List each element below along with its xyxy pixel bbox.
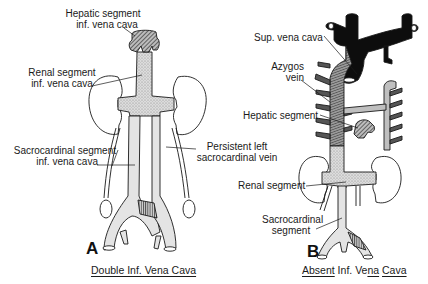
label-line: Sup. vena cava bbox=[254, 32, 323, 43]
label-line: inf. vena cava bbox=[26, 78, 98, 89]
renal-segment-ivc bbox=[118, 52, 174, 116]
panel-a-drawing bbox=[89, 28, 206, 251]
label-line: Sacrocardinal bbox=[262, 214, 320, 225]
label-line: Persistent left bbox=[192, 141, 282, 152]
left-gonad bbox=[100, 200, 112, 218]
label-line: Azygos bbox=[262, 61, 304, 72]
label-line: vein bbox=[262, 72, 304, 83]
label-sacrocardinal-segment-ivc: Sacrocardinal segment inf. vena cava bbox=[8, 145, 116, 167]
caption-na: na bbox=[367, 264, 379, 276]
right-gonad bbox=[183, 200, 195, 218]
label-renal-segment-ivc: Renal segment inf. vena cava bbox=[26, 67, 98, 89]
label-line: Hepatic segment bbox=[58, 8, 148, 19]
label-hepatic-segment-ivc: Hepatic segment inf. vena cava bbox=[58, 8, 148, 30]
label-line: Hepatic segment bbox=[243, 110, 318, 121]
label-line: Renal segment bbox=[238, 180, 305, 191]
label-line: inf. vena cava bbox=[8, 156, 116, 167]
label-line: segment bbox=[262, 225, 320, 236]
panel-a-caption: Double Inf. Vena Cava bbox=[91, 264, 196, 276]
renal-segment-b bbox=[322, 146, 376, 188]
right-kidney bbox=[173, 76, 206, 134]
caption-cava: Cava bbox=[382, 264, 407, 276]
label-line: sacrocardinal vein bbox=[192, 152, 282, 163]
label-azygos-vein: Azygos vein bbox=[262, 61, 304, 83]
panel-b-caption: Absent Inf. Vena Cava bbox=[302, 264, 407, 276]
azygos-hemiazygos-connection bbox=[344, 104, 386, 114]
hepatic-segment-b bbox=[354, 120, 375, 138]
label-sacrocardinal-segment: Sacrocardinal segment bbox=[262, 214, 320, 236]
label-line: inf. vena cava bbox=[58, 19, 148, 30]
label-persistent-left-sacrocardinal-vein: Persistent left sacrocardinal vein bbox=[192, 141, 282, 163]
panel-b-letter: B bbox=[307, 243, 319, 260]
hemiazygos-intercostal-branches bbox=[390, 88, 402, 144]
label-hepatic-segment: Hepatic segment bbox=[243, 110, 318, 121]
label-line: Sacrocardinal segment bbox=[8, 145, 116, 156]
panel-a-letter: A bbox=[86, 240, 98, 257]
caption-inf-ve: Inf. Ve bbox=[335, 264, 368, 276]
label-line: Renal segment bbox=[26, 67, 98, 78]
label-renal-segment: Renal segment bbox=[238, 180, 305, 191]
label-superior-vena-cava: Sup. vena cava bbox=[254, 32, 323, 43]
hepatic-segment-ivc bbox=[129, 30, 159, 52]
caption-absent: Absent bbox=[302, 264, 335, 276]
